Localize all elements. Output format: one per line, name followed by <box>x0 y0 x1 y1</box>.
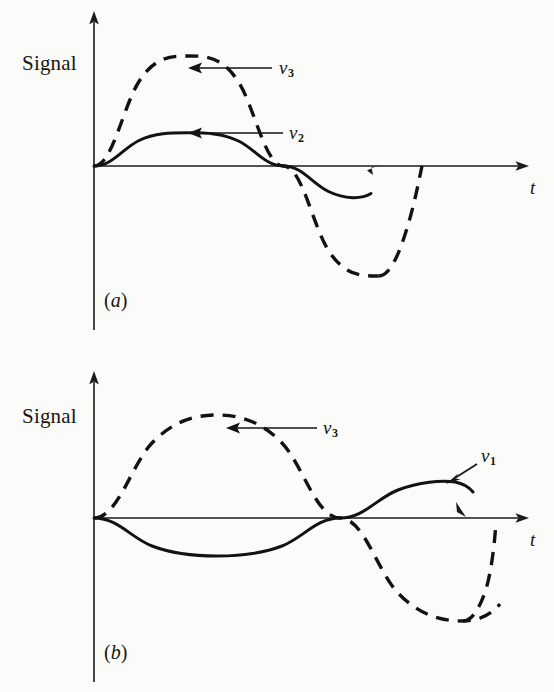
figure-page: Signal v3 v2 t (a) <box>0 0 554 692</box>
chart-panel-a: Signal v3 v2 t (a) <box>0 0 554 346</box>
panel-a-v3-symbol: v3 <box>279 57 293 78</box>
panel-b-v1-symbol: v1 <box>481 445 495 466</box>
panel-b-plot <box>0 346 554 692</box>
panel-b-y-axis <box>89 371 99 682</box>
dashed-curve-v3-tail <box>379 166 423 276</box>
chart-panel-b: Signal v3 v1 t (b) <box>0 346 554 692</box>
annotation-arrow-v2 <box>188 128 283 139</box>
panel-b-caption: (b) <box>104 642 127 662</box>
panel-a-y-axis-label: Signal <box>22 53 77 74</box>
panel-a-x-axis-label: t <box>530 178 535 197</box>
panel-a-caption-letter: a <box>111 289 121 311</box>
solid-curve-v1-endcap <box>450 502 467 517</box>
panel-b-series-label-v3: v3 <box>323 418 337 437</box>
panel-a-x-axis <box>94 161 529 171</box>
panel-a-series-label-v3: v3 <box>279 58 293 77</box>
annotation-arrow-v1 <box>446 464 477 484</box>
panel-a-v2-symbol: v2 <box>289 122 303 143</box>
dashed-curve-v3-tail <box>463 522 496 621</box>
panel-b-caption-letter: b <box>111 641 121 663</box>
panel-b-v3-symbol: v3 <box>323 417 337 438</box>
panel-b-y-axis-label: Signal <box>22 406 77 427</box>
panel-b-x-axis-label: t <box>530 530 535 549</box>
panel-a-plot <box>0 0 554 346</box>
panel-b-series-label-v1: v1 <box>481 446 495 465</box>
panel-a-caption: (a) <box>104 290 127 310</box>
panel-a-y-axis <box>89 11 99 330</box>
panel-a-series-label-v2: v2 <box>289 123 303 142</box>
